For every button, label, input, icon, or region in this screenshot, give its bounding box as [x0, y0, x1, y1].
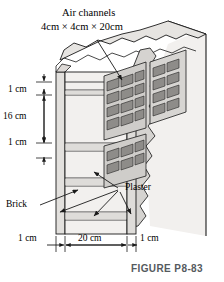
air-channels-title-line2: 4cm × 4cm × 20cm [41, 21, 123, 32]
dimension-label-left-plaster: 1 cm [18, 233, 37, 243]
dimension-label-top-plaster: 1 cm [8, 84, 27, 94]
figure-caption: FIGURE P8-83 [131, 263, 203, 274]
figure-container: Air channels 4cm × 4cm × 20cm 1 cm 16 cm… [0, 0, 224, 282]
air-channels-title-line1: Air channels [62, 7, 115, 18]
dimension-label-brick-depth: 20 cm [78, 233, 101, 243]
brick-label: Brick [6, 199, 27, 209]
dimension-label-brick-height: 16 cm [3, 111, 26, 121]
vertical-dimension-chain [36, 74, 52, 165]
dimension-label-bottom-plaster: 1 cm [8, 137, 27, 147]
dimension-label-right-plaster: 1 cm [140, 233, 159, 243]
plaster-label: Plaster [125, 182, 151, 192]
